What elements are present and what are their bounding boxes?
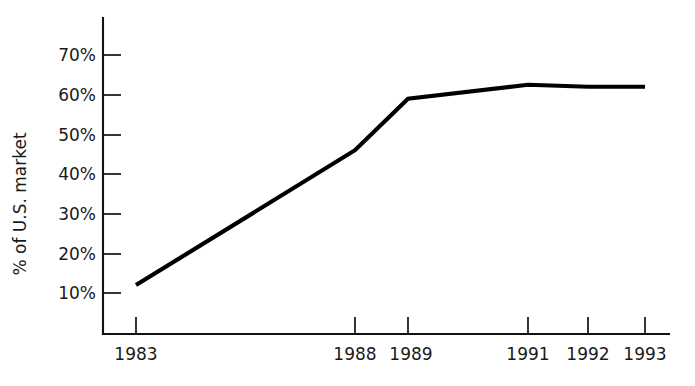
y-axis-title: % of U.S. market (10, 132, 30, 275)
y-tick-label-60: 60% (58, 85, 96, 105)
line-chart: 70% 60% 50% 40% 30% 20% 10% 1983 1988 19… (0, 0, 695, 386)
x-tick-label-1993: 1993 (623, 344, 666, 364)
y-tick-label-40: 40% (58, 164, 96, 184)
y-tick-label-50: 50% (58, 125, 96, 145)
x-tick-label-1983: 1983 (114, 344, 157, 364)
chart-container: 70% 60% 50% 40% 30% 20% 10% 1983 1988 19… (0, 0, 695, 386)
x-tick-label-1989: 1989 (389, 344, 432, 364)
x-tick-label-1991: 1991 (506, 344, 549, 364)
y-tick-label-10: 10% (58, 283, 96, 303)
y-tick-label-20: 20% (58, 244, 96, 264)
x-axis-ticks (136, 317, 645, 334)
y-tick-label-70: 70% (58, 45, 96, 65)
y-axis-ticks (103, 55, 121, 293)
y-tick-label-30: 30% (58, 204, 96, 224)
x-tick-label-1992: 1992 (566, 344, 609, 364)
y-axis-tick-labels: 70% 60% 50% 40% 30% 20% 10% (58, 45, 96, 303)
data-series-line (136, 85, 645, 285)
x-axis-tick-labels: 1983 1988 1989 1991 1992 1993 (114, 344, 666, 364)
x-tick-label-1988: 1988 (333, 344, 376, 364)
